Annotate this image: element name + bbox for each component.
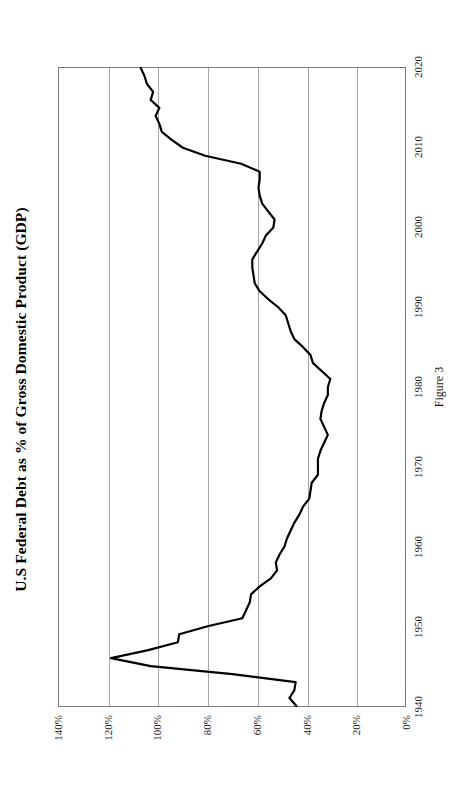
x-axis-tick-labels: 194019501960197019801990200020102020 bbox=[412, 67, 432, 707]
x-tick-label: 1970 bbox=[412, 437, 424, 497]
y-tick-label: 140% bbox=[52, 715, 64, 785]
y-tick-label: 80% bbox=[201, 715, 213, 785]
x-tick-label: 1990 bbox=[412, 277, 424, 337]
x-tick-label: 2020 bbox=[412, 37, 424, 97]
y-tick-label: 20% bbox=[350, 715, 362, 785]
y-tick-label: 120% bbox=[102, 715, 114, 785]
y-tick-label: 60% bbox=[251, 715, 263, 785]
x-tick-label: 2010 bbox=[412, 117, 424, 177]
plot-area bbox=[58, 67, 406, 707]
x-tick-label: 1940 bbox=[412, 677, 424, 737]
y-tick-label: 100% bbox=[151, 715, 163, 785]
x-tick-label: 1950 bbox=[412, 597, 424, 657]
series-path bbox=[111, 68, 330, 706]
chart-title: U.S Federal Debt as % of Gross Domestic … bbox=[12, 0, 30, 799]
x-tick-label: 1960 bbox=[412, 517, 424, 577]
debt-to-gdp-line-series bbox=[59, 68, 406, 706]
rotated-chart-stage: U.S Federal Debt as % of Gross Domestic … bbox=[0, 0, 453, 799]
x-tick-label: 1980 bbox=[412, 357, 424, 417]
figure-caption: Figure 3 bbox=[432, 67, 447, 707]
y-axis-tick-labels: 0%20%40%60%80%100%120%140% bbox=[58, 715, 406, 789]
y-tick-label: 0% bbox=[400, 715, 412, 785]
figure-page: U.S Federal Debt as % of Gross Domestic … bbox=[0, 0, 453, 799]
x-tick-label: 2000 bbox=[412, 197, 424, 257]
y-tick-label: 40% bbox=[301, 715, 313, 785]
